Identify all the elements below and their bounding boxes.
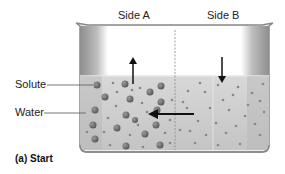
water-label: Water	[15, 106, 44, 118]
side-b-label: Side B	[207, 9, 239, 21]
side-a-label: Side A	[118, 9, 150, 21]
beaker	[76, 23, 273, 152]
solute-label: Solute	[15, 78, 46, 90]
figure-caption: (a) Start	[15, 153, 53, 164]
